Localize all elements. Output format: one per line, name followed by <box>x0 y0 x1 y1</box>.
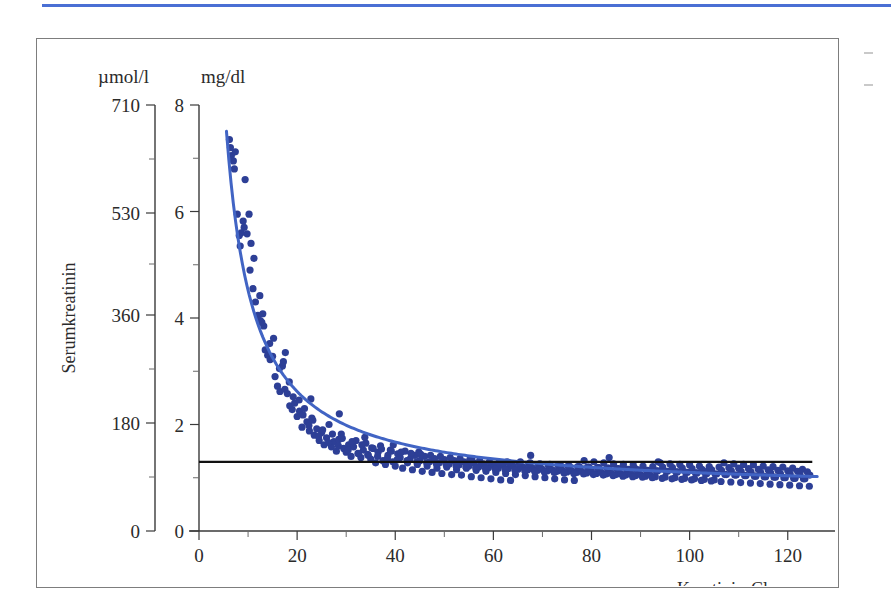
data-point <box>678 476 685 483</box>
data-point <box>482 465 489 472</box>
data-point <box>319 426 326 433</box>
data-point <box>766 481 773 488</box>
data-point <box>378 445 385 452</box>
data-point <box>270 335 277 342</box>
data-point <box>247 240 254 247</box>
data-point <box>398 449 405 456</box>
data-point <box>242 176 249 183</box>
data-point <box>551 475 558 482</box>
data-point <box>472 464 479 471</box>
data-point <box>806 483 813 490</box>
data-point <box>521 467 528 474</box>
data-point <box>497 476 504 483</box>
data-point <box>407 450 414 457</box>
data-point <box>409 466 416 473</box>
data-point <box>708 477 715 484</box>
data-point <box>639 474 646 481</box>
axis-labels: 020406080100120024680180360530710µmol/lm… <box>59 66 823 586</box>
data-point <box>415 449 422 456</box>
data-point <box>256 292 263 299</box>
data-point <box>250 255 257 262</box>
data-point <box>786 482 793 489</box>
data-point <box>688 476 695 483</box>
data-point <box>560 469 567 476</box>
data-point <box>345 446 352 453</box>
data-point <box>606 454 613 461</box>
data-point <box>492 466 499 473</box>
x-tick-label: 80 <box>582 545 601 566</box>
data-point <box>282 349 289 356</box>
data-point <box>507 477 514 484</box>
data-point <box>502 466 509 473</box>
data-point <box>315 433 322 440</box>
data-point <box>298 424 305 431</box>
data-point <box>348 438 355 445</box>
data-point <box>452 462 459 469</box>
data-point <box>527 452 534 459</box>
data-point <box>551 469 558 476</box>
data-point <box>231 165 238 172</box>
data-point <box>325 439 332 446</box>
data-point <box>531 468 538 475</box>
data-point <box>570 470 577 477</box>
data-point <box>561 476 568 483</box>
scatter-points <box>226 136 814 490</box>
data-point <box>747 479 754 486</box>
x-tick-label: 0 <box>194 545 204 566</box>
data-point <box>335 442 342 449</box>
margin-mark <box>864 52 873 54</box>
y-tick-label-mgdl: 0 <box>175 521 185 542</box>
x-tick-label: 100 <box>675 545 704 566</box>
x-tick-label: 120 <box>774 545 803 566</box>
data-point <box>249 285 256 292</box>
data-point <box>698 477 705 484</box>
data-point <box>757 480 764 487</box>
data-point <box>230 157 237 164</box>
scatter-plot: 020406080100120024680180360530710µmol/lm… <box>37 39 837 586</box>
data-point <box>619 473 626 480</box>
data-point <box>329 430 336 437</box>
data-point <box>243 230 250 237</box>
x-tick-label: 60 <box>484 545 503 566</box>
data-point <box>462 464 469 471</box>
data-point <box>580 470 587 477</box>
y-tick-label-mgdl: 2 <box>175 415 185 436</box>
data-point <box>590 471 597 478</box>
data-point <box>511 467 518 474</box>
data-point <box>336 410 343 417</box>
data-point <box>419 468 426 475</box>
data-point <box>629 473 636 480</box>
unit-label-mgdl: mg/dl <box>201 66 245 87</box>
data-point <box>325 421 332 428</box>
unit-label-umol: µmol/l <box>98 66 149 87</box>
data-point <box>487 475 494 482</box>
data-point <box>240 217 247 224</box>
data-point <box>246 266 253 273</box>
top-divider-rule <box>42 4 891 7</box>
data-point <box>776 481 783 488</box>
data-point <box>241 224 248 231</box>
data-point <box>280 358 287 365</box>
y-tick-label-umol: 360 <box>112 305 141 326</box>
data-point <box>374 453 381 460</box>
y-tick-label-mgdl: 8 <box>175 95 185 116</box>
x-tick-label: 40 <box>386 545 405 566</box>
data-point <box>717 478 724 485</box>
data-point <box>600 471 607 478</box>
data-point <box>364 451 371 458</box>
data-point <box>289 406 296 413</box>
data-point <box>339 435 346 442</box>
y-tick-label-umol: 0 <box>131 521 141 542</box>
data-point <box>571 477 578 484</box>
data-point <box>299 411 306 418</box>
y-tick-label-mgdl: 4 <box>175 308 185 329</box>
data-point <box>468 473 475 480</box>
x-axis-title: Kreatinin-Clearance <box>677 579 823 586</box>
data-point <box>438 470 445 477</box>
data-point <box>368 444 375 451</box>
data-point <box>609 472 616 479</box>
page-margin-marks <box>862 46 888 106</box>
data-point <box>392 462 399 469</box>
y-tick-label-umol: 710 <box>112 95 141 116</box>
data-point <box>737 479 744 486</box>
